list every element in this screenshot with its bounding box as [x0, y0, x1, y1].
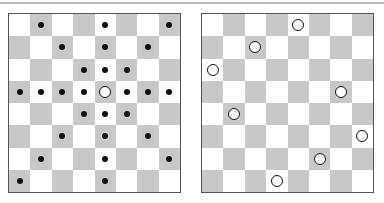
board-square: [73, 81, 94, 103]
board-square: [245, 125, 266, 147]
board-square: [95, 103, 116, 125]
board-square: [95, 36, 116, 58]
board-square: [245, 36, 266, 58]
queen-marker-icon: [335, 86, 347, 98]
board-square: [266, 14, 287, 36]
board-square: [352, 125, 373, 147]
board-square: [330, 81, 351, 103]
board-square: [202, 36, 223, 58]
board-square: [245, 103, 266, 125]
board-square: [223, 14, 244, 36]
board-square: [73, 14, 94, 36]
board-square: [9, 170, 30, 192]
board-square: [52, 125, 73, 147]
board-square: [352, 170, 373, 192]
board-square: [223, 103, 244, 125]
board-square: [202, 170, 223, 192]
board-square: [266, 148, 287, 170]
board-square: [330, 36, 351, 58]
board-square: [30, 59, 51, 81]
board-square: [52, 148, 73, 170]
board-square: [223, 125, 244, 147]
attacked-square-dot-icon: [59, 89, 65, 95]
board-square: [288, 148, 309, 170]
board-square: [95, 125, 116, 147]
board-square: [159, 81, 180, 103]
board-square: [9, 103, 30, 125]
queen-marker-icon: [314, 153, 326, 165]
board-square: [288, 59, 309, 81]
attacked-square-dot-icon: [81, 111, 87, 117]
board-square: [266, 170, 287, 192]
board-square: [266, 125, 287, 147]
board-square: [30, 14, 51, 36]
board-square: [73, 36, 94, 58]
board-square: [159, 36, 180, 58]
attacked-square-dot-icon: [38, 89, 44, 95]
board-square: [223, 170, 244, 192]
board-square: [309, 14, 330, 36]
board-square: [95, 59, 116, 81]
queen-marker-icon: [228, 108, 240, 120]
board-square: [30, 36, 51, 58]
board-square: [288, 36, 309, 58]
board-square: [116, 103, 137, 125]
board-square: [202, 81, 223, 103]
board-square: [137, 59, 158, 81]
board-square: [116, 59, 137, 81]
board-square: [309, 103, 330, 125]
board-square: [288, 103, 309, 125]
board-square: [245, 170, 266, 192]
board-square: [202, 148, 223, 170]
board-square: [159, 103, 180, 125]
queen-marker-icon: [356, 130, 368, 142]
board-square: [352, 14, 373, 36]
board-square: [137, 36, 158, 58]
board-square: [73, 103, 94, 125]
board-square: [330, 170, 351, 192]
board-square: [116, 14, 137, 36]
board-square: [330, 59, 351, 81]
board-square: [309, 125, 330, 147]
board-square: [9, 148, 30, 170]
board-square: [30, 148, 51, 170]
attacked-square-dot-icon: [17, 178, 23, 184]
board-square: [95, 170, 116, 192]
board-square: [223, 59, 244, 81]
eight-queens-solution-board: [201, 13, 374, 193]
queen-marker-icon: [292, 19, 304, 31]
board-square: [73, 170, 94, 192]
attacked-square-dot-icon: [81, 89, 87, 95]
board-square: [245, 59, 266, 81]
attacked-square-dot-icon: [17, 89, 23, 95]
board-square: [245, 148, 266, 170]
board-square: [137, 81, 158, 103]
attacked-square-dot-icon: [102, 133, 108, 139]
board-square: [288, 81, 309, 103]
attacked-square-dot-icon: [166, 156, 172, 162]
attacked-square-dot-icon: [102, 67, 108, 73]
board-square: [30, 103, 51, 125]
board-square: [52, 14, 73, 36]
board-square: [352, 103, 373, 125]
attacked-square-dot-icon: [124, 67, 130, 73]
board-square: [116, 81, 137, 103]
board-square: [95, 148, 116, 170]
board-square: [352, 36, 373, 58]
board-square: [159, 125, 180, 147]
board-square: [288, 170, 309, 192]
attacked-square-dot-icon: [166, 22, 172, 28]
attacked-square-dot-icon: [102, 156, 108, 162]
board-square: [352, 59, 373, 81]
board-square: [137, 148, 158, 170]
board-square: [330, 14, 351, 36]
attacked-square-dot-icon: [59, 44, 65, 50]
attacked-square-dot-icon: [102, 22, 108, 28]
board-square: [266, 81, 287, 103]
board-square: [95, 14, 116, 36]
board-square: [137, 103, 158, 125]
board-square: [159, 148, 180, 170]
board-square: [9, 14, 30, 36]
board-square: [309, 170, 330, 192]
board-square: [288, 125, 309, 147]
